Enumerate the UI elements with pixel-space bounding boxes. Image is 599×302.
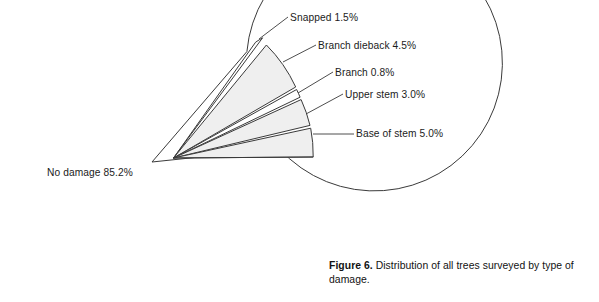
slice-label-snapped: Snapped 1.5% (290, 12, 358, 23)
slice-label-upper-stem: Upper stem 3.0% (345, 89, 425, 100)
slice-label-branch-dieback: Branch dieback 4.5% (318, 40, 416, 51)
slice-label-base-of-stem: Base of stem 5.0% (356, 128, 443, 139)
pie-slice-no-damage (152, 0, 502, 191)
figure-caption: Figure 6. Distribution of all trees surv… (329, 259, 587, 286)
pie-chart-graphic (0, 0, 599, 302)
figure-caption-number: Figure 6. (329, 260, 373, 271)
slice-label-no-damage: No damage 85.2% (47, 167, 133, 178)
slice-label-branch: Branch 0.8% (335, 67, 394, 78)
figure-6-pie-chart: No damage 85.2% Snapped 1.5% Branch dieb… (0, 0, 599, 302)
